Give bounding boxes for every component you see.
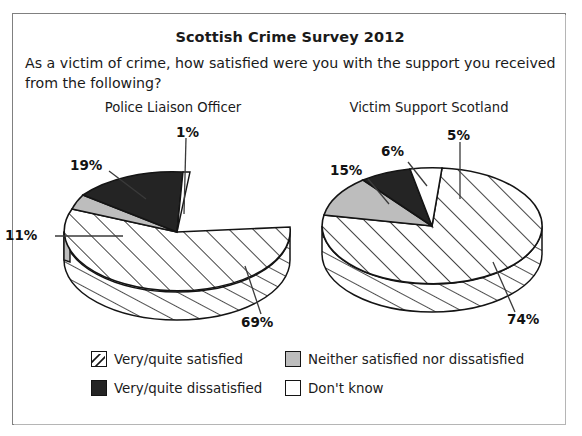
legend-item-neither: Neither satisfied nor dissatisfied (285, 351, 524, 367)
legend-item-dissatisfied: Very/quite dissatisfied (91, 380, 262, 396)
figure-frame: Scottish Crime Survey 2012 As a victim o… (12, 13, 566, 425)
legend-swatch-hatched-icon (91, 351, 107, 367)
pie-chart-victim-support-scotland (13, 14, 567, 354)
label-satisfied-victim: 74% (507, 311, 539, 327)
legend-label-neither: Neither satisfied nor dissatisfied (308, 352, 524, 367)
label-dissatisfied-victim: 6% (381, 143, 404, 159)
legend-swatch-white-icon (285, 380, 301, 396)
legend-label-satisfied: Very/quite satisfied (114, 352, 243, 367)
legend-label-dontknow: Don't know (308, 381, 384, 396)
label-neither-victim: 15% (330, 162, 362, 178)
legend-item-satisfied: Very/quite satisfied (91, 351, 243, 367)
legend-label-dissatisfied: Very/quite dissatisfied (114, 381, 262, 396)
legend: Very/quite satisfied Neither satisfied n… (13, 351, 567, 413)
legend-swatch-gray-icon (285, 351, 301, 367)
legend-swatch-black-icon (91, 380, 107, 396)
legend-item-dontknow: Don't know (285, 380, 384, 396)
label-dontknow-victim: 5% (447, 127, 470, 143)
figure-root: Scottish Crime Survey 2012 As a victim o… (0, 0, 582, 436)
